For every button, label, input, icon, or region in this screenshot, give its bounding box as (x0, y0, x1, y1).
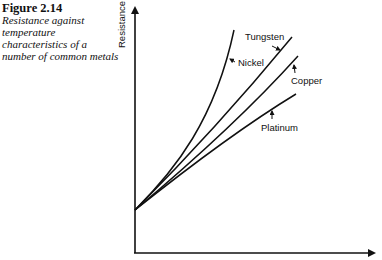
nickel-pointer (230, 59, 235, 62)
label-tungsten: Tungsten (245, 31, 284, 42)
tungsten-pointer (272, 46, 280, 50)
resistance-temperature-diagram: Resistance Tungsten Nickel Copper Platin… (0, 0, 382, 260)
label-copper: Copper (291, 75, 322, 86)
label-platinum: Platinum (261, 122, 298, 133)
curve-copper (135, 56, 298, 210)
label-nickel: Nickel (238, 57, 264, 68)
y-axis-label: Resistance (116, 1, 127, 48)
copper-pointer (294, 65, 295, 73)
curve-nickel (135, 30, 234, 210)
